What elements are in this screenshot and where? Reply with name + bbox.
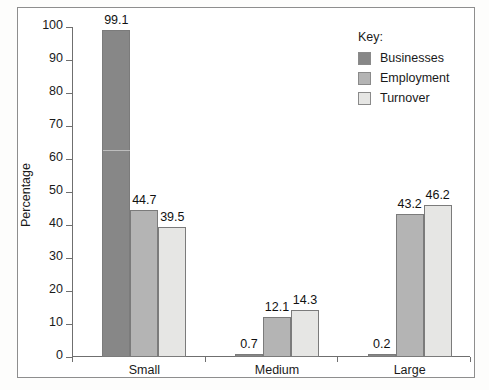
y-tick-mark <box>66 93 72 94</box>
bar-group-bars: 0.712.114.3 <box>235 27 319 357</box>
bar-group-small: 99.144.739.5Small <box>102 27 186 357</box>
bar-value-label: 44.7 <box>132 193 156 207</box>
bar-large-employment[interactable] <box>396 214 424 357</box>
bar-slot: 0.7 <box>235 27 263 357</box>
x-tick-mark <box>205 357 206 362</box>
legend-item-label: Turnover <box>380 91 430 105</box>
bar-slot: 44.7 <box>130 27 158 357</box>
bar-value-label: 46.2 <box>425 188 449 202</box>
scan-artifact-line <box>103 150 131 151</box>
bar-medium-businesses[interactable] <box>235 354 263 357</box>
y-tick-label: 0 <box>56 348 63 362</box>
y-tick-label: 50 <box>49 183 63 197</box>
legend-item-businesses[interactable]: Businesses <box>358 51 449 65</box>
y-tick-mark <box>66 126 72 127</box>
bar-large-turnover[interactable] <box>424 205 452 357</box>
legend-title: Key: <box>358 30 449 44</box>
y-tick-label: 100 <box>42 18 63 32</box>
y-tick-label: 10 <box>49 315 63 329</box>
y-tick-label: 30 <box>49 249 63 263</box>
legend-item-employment[interactable]: Employment <box>358 71 449 85</box>
y-tick-mark <box>66 258 72 259</box>
y-tick-mark <box>66 159 72 160</box>
bar-slot: 12.1 <box>263 27 291 357</box>
y-axis-title: Percentage <box>19 163 33 227</box>
bar-value-label: 99.1 <box>104 13 128 27</box>
y-tick-label: 60 <box>49 150 63 164</box>
y-tick-label: 70 <box>49 117 63 131</box>
legend-swatch-icon <box>358 52 371 65</box>
bar-value-label: 14.3 <box>293 293 317 307</box>
bar-group-bars: 99.144.739.5 <box>102 27 186 357</box>
bar-value-label: 43.2 <box>397 197 421 211</box>
y-tick-mark <box>66 60 72 61</box>
x-tick-mark <box>337 357 338 362</box>
bar-medium-employment[interactable] <box>263 317 291 357</box>
bar-value-label: 12.1 <box>265 300 289 314</box>
bar-small-employment[interactable] <box>130 210 158 358</box>
x-tick-mark <box>72 357 73 362</box>
chart-figure: Percentage 0102030405060708090100 99.144… <box>0 0 489 390</box>
y-axis-line <box>72 27 73 357</box>
bar-value-label: 39.5 <box>160 210 184 224</box>
legend-item-label: Employment <box>380 71 449 85</box>
x-axis-label-medium: Medium <box>255 363 299 377</box>
legend-swatch-icon <box>358 92 371 105</box>
y-tick-label: 90 <box>49 51 63 65</box>
bar-medium-turnover[interactable] <box>291 310 319 357</box>
legend-swatch-icon <box>358 72 371 85</box>
legend: Key: BusinessesEmploymentTurnover <box>358 30 449 111</box>
y-tick-mark <box>66 27 72 28</box>
x-axis-label-large: Large <box>394 363 426 377</box>
y-tick-label: 40 <box>49 216 63 230</box>
x-axis-label-small: Small <box>129 363 160 377</box>
bar-slot: 99.1 <box>102 27 130 357</box>
bar-large-businesses[interactable] <box>368 354 396 357</box>
bar-value-label: 0.2 <box>373 337 390 351</box>
bar-slot: 14.3 <box>291 27 319 357</box>
y-tick-label: 80 <box>49 84 63 98</box>
y-tick-mark <box>66 192 72 193</box>
x-tick-mark <box>470 357 471 362</box>
y-tick-mark <box>66 324 72 325</box>
y-tick-label: 20 <box>49 282 63 296</box>
legend-item-turnover[interactable]: Turnover <box>358 91 449 105</box>
bar-small-businesses[interactable] <box>102 30 130 357</box>
bar-value-label: 0.7 <box>240 337 257 351</box>
bar-slot: 39.5 <box>158 27 186 357</box>
bar-group-medium: 0.712.114.3Medium <box>235 27 319 357</box>
bar-small-turnover[interactable] <box>158 227 186 357</box>
legend-items: BusinessesEmploymentTurnover <box>358 51 449 105</box>
y-tick-mark <box>66 291 72 292</box>
legend-item-label: Businesses <box>380 51 444 65</box>
y-tick-mark <box>66 225 72 226</box>
